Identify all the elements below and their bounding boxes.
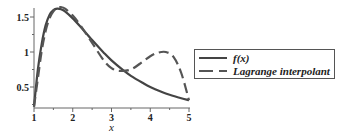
x-tick-label: 5 — [187, 112, 192, 123]
y-tick-label: 0.5 — [17, 82, 30, 93]
legend-label: Lagrange interpolant — [233, 65, 330, 77]
lagrange-interpolant-line — [34, 7, 189, 106]
fx-line — [34, 9, 189, 107]
solid-line-icon — [199, 53, 227, 63]
axes: 123450.511.5x — [17, 8, 192, 133]
dashed-line-icon — [199, 66, 227, 76]
series-lines — [34, 7, 189, 106]
x-axis-title: x — [108, 121, 114, 133]
x-tick-label: 2 — [70, 112, 75, 123]
y-tick-label: 1.5 — [17, 12, 30, 23]
x-tick-label: 1 — [32, 112, 37, 123]
legend-item-lagrange: Lagrange interpolant — [199, 64, 330, 78]
y-tick-label: 1 — [24, 47, 29, 58]
x-tick-label: 4 — [148, 112, 153, 123]
legend: f(x) Lagrange interpolant — [194, 49, 335, 79]
legend-label: f(x) — [233, 52, 250, 64]
legend-item-fx: f(x) — [199, 51, 250, 65]
